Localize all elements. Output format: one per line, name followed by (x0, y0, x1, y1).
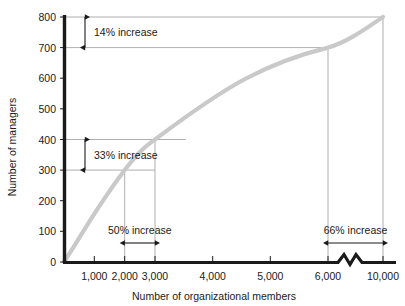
annotation-50-percent-label: 50% increase (108, 224, 172, 236)
annotation-14-percent-label: 14% increase (94, 26, 158, 38)
y-tick-label-200: 200 (38, 195, 56, 207)
y-tick-label-600: 600 (38, 72, 56, 84)
y-tick-label-800: 800 (38, 11, 56, 23)
y-tick-label-0: 0 (50, 256, 56, 268)
chart-container: 800 700 600 500 400 300 200 100 0 1,000 … (0, 0, 405, 306)
x-axis-title: Number of organizational members (132, 290, 296, 302)
x-tick-label-1000: 1,000 (81, 270, 107, 282)
y-tick-label-300: 300 (38, 164, 56, 176)
y-tick-label-700: 700 (38, 42, 56, 54)
x-tick-label-6000: 6,000 (315, 270, 341, 282)
y-tick-label-100: 100 (38, 225, 56, 237)
y-axis-title: Number of managers (6, 98, 18, 197)
x-tick-label-10000: 10,000 (367, 270, 399, 282)
x-tick-label-3000: 3,000 (142, 270, 168, 282)
annotation-66-percent-label: 66% increase (324, 224, 388, 236)
chart-background (0, 0, 405, 306)
chart-canvas: 800 700 600 500 400 300 200 100 0 1,000 … (0, 0, 405, 306)
y-tick-label-400: 400 (38, 134, 56, 146)
y-tick-label-500: 500 (38, 103, 56, 115)
annotation-33-percent-label: 33% increase (94, 149, 158, 161)
y-axis-tick-labels: 800 700 600 500 400 300 200 100 0 (38, 11, 56, 268)
x-tick-label-4000: 4,000 (200, 270, 226, 282)
x-tick-label-2000: 2,000 (112, 270, 138, 282)
x-tick-label-5000: 5,000 (257, 270, 283, 282)
